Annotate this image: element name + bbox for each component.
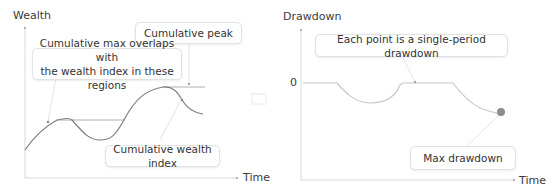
max-drawdown-point — [497, 108, 505, 116]
wealth-index-curve — [25, 87, 203, 150]
max-drawdown-callout: Max drawdown — [410, 146, 516, 170]
overlap-callout: Cumulative max overlaps with the wealth … — [32, 48, 182, 80]
drawdown-axis-label: Drawdown — [283, 10, 341, 23]
wealth-index-text: Cumulative wealth index — [112, 142, 213, 170]
left-time-axis-label: Time — [243, 171, 270, 184]
single-period-text: Each point is a single-period drawdown — [322, 32, 501, 60]
max-drawdown-text: Max drawdown — [423, 151, 502, 165]
right-time-axis-label: Time — [519, 174, 546, 187]
wealth-axis-label: Wealth — [13, 9, 51, 22]
wealth-index-callout: Cumulative wealth index — [105, 145, 220, 167]
zero-tick-label: 0 — [290, 76, 297, 89]
overlap-text-line1: Cumulative max overlaps with — [39, 36, 175, 64]
overlap-text-line2: the wealth index in these regions — [39, 64, 175, 92]
drawdown-curve — [303, 83, 501, 114]
single-period-callout: Each point is a single-period drawdown — [315, 34, 508, 57]
arrow-icon — [252, 94, 266, 104]
right-callout-connectors — [403, 58, 499, 146]
